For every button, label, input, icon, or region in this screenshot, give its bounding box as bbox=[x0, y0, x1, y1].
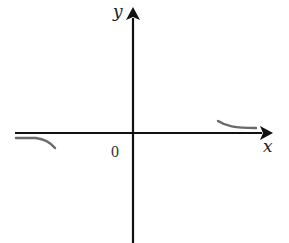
origin-label: 0 bbox=[111, 143, 119, 160]
y-axis-label: y bbox=[112, 1, 123, 21]
curve-left-branch bbox=[16, 138, 55, 148]
coordinate-graph: y x 0 bbox=[0, 0, 289, 243]
x-axis-label: x bbox=[263, 136, 273, 156]
curve-right-branch bbox=[218, 121, 256, 128]
